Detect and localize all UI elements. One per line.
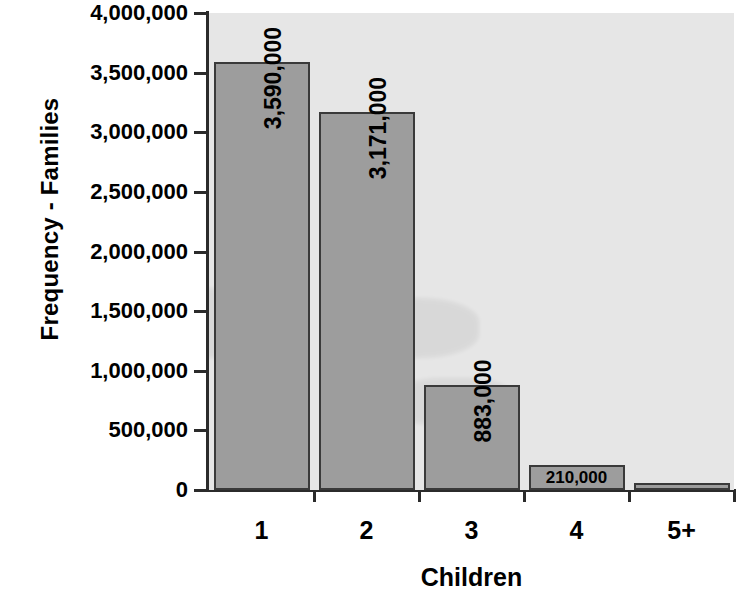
y-axis-tick-label: 2,500,000: [8, 181, 188, 203]
x-axis-category-label: 2: [307, 518, 427, 543]
y-axis-tick-labels: 4,000,0003,500,0003,000,0002,500,0002,00…: [0, 0, 188, 607]
y-axis-tick-label: 500,000: [8, 419, 188, 441]
y-axis-tick-label: 3,500,000: [8, 62, 188, 84]
x-axis-tick-mark: [313, 489, 316, 502]
y-axis-tick-mark: [194, 72, 207, 75]
bar-data-label: 210,000: [546, 469, 607, 486]
y-axis-tick-label: 3,000,000: [8, 121, 188, 143]
x-axis-category-label: 5+: [622, 518, 742, 543]
y-axis-tick-mark: [194, 370, 207, 373]
bar: 3,590,000: [214, 62, 310, 490]
bar-data-label: 3,590,000: [262, 27, 285, 129]
y-axis-tick-mark: [194, 191, 207, 194]
x-axis-category-label: 1: [202, 518, 322, 543]
bar-data-label: 883,000: [472, 359, 495, 442]
bar: 210,000: [529, 465, 625, 490]
x-axis-tick-mark: [733, 489, 736, 502]
y-axis-tick-label: 1,000,000: [8, 360, 188, 382]
y-axis-tick-mark: [194, 429, 207, 432]
x-axis-category-label: 3: [412, 518, 532, 543]
y-axis-tick-mark: [194, 310, 207, 313]
x-axis-title: Children: [209, 565, 734, 590]
x-axis-tick-mark: [418, 489, 421, 502]
x-axis-category-label: 4: [517, 518, 637, 543]
bar: 3,171,000: [319, 112, 415, 490]
y-axis-tick-label: 0: [8, 479, 188, 501]
y-axis-tick-mark: [194, 12, 207, 15]
y-axis-tick-label: 4,000,000: [8, 2, 188, 24]
bar: 883,000: [424, 385, 520, 490]
bar-chart: Frequency - Families 4,000,0003,500,0003…: [0, 0, 743, 607]
y-axis-tick-mark: [194, 251, 207, 254]
plot-area: 3,590,0003,171,000883,000210,000: [209, 13, 734, 490]
x-axis-tick-mark: [523, 489, 526, 502]
bar: [634, 483, 730, 490]
y-axis-tick-mark: [194, 489, 207, 492]
bar-data-label: 3,171,000: [367, 77, 390, 179]
y-axis-tick-label: 2,000,000: [8, 241, 188, 263]
y-axis-tick-mark: [194, 131, 207, 134]
x-axis-tick-mark: [628, 489, 631, 502]
y-axis-tick-label: 1,500,000: [8, 300, 188, 322]
